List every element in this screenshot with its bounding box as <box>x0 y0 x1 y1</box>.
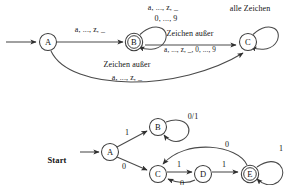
bottom-state-c-label: C <box>155 170 161 179</box>
bottom-edge-a-to-b <box>117 131 147 147</box>
bottom-state-b-label: B <box>155 123 161 132</box>
top-label-c-self-loop: alle Zeichen <box>230 5 271 13</box>
bottom-label-a-to-b: 1 <box>125 129 129 137</box>
top-automaton-group <box>6 27 278 82</box>
bottom-edge-e-self-loop <box>257 162 283 185</box>
bottom-edge-e-to-c <box>163 147 247 165</box>
bottom-label-a-to-c: 0 <box>122 163 126 171</box>
top-label-b-to-c-line2: a, ..., z, _, 0, ..., 9 <box>164 47 216 54</box>
diagram-vector-layer <box>0 0 289 185</box>
bottom-state-a-label: A <box>107 148 113 157</box>
top-label-a-to-c-line2: a, ..., z, _ <box>112 74 142 82</box>
top-label-b-self-loop-line1: a, ..., z, _ <box>148 4 178 12</box>
bottom-state-e-label: E <box>247 170 252 179</box>
bottom-state-d-label: D <box>200 170 206 179</box>
bottom-label-e-to-c: 0 <box>225 141 229 149</box>
bottom-label-d-to-e: 1 <box>222 161 226 169</box>
top-label-a-to-b: a, ..., z, _ <box>75 26 105 34</box>
top-state-b-label: B <box>131 38 137 47</box>
top-label-b-self-loop-line2: 0, ..., 9 <box>155 15 178 23</box>
bottom-start-label: Start <box>48 156 67 165</box>
top-edge-b-self-loop <box>139 27 166 49</box>
top-label-a-to-c-line1: Zeichen außer <box>104 61 151 69</box>
bottom-edge-b-self-loop <box>164 120 189 141</box>
top-label-b-to-c-line1: Zeichen außer <box>167 30 214 38</box>
bottom-label-d-to-c: 0 <box>180 180 184 185</box>
top-state-c-label: C <box>245 38 251 47</box>
bottom-label-e-self-loop: 1 <box>279 145 283 153</box>
automata-figure: A B C a, ..., z, _ a, ..., z, _ 0, ..., … <box>0 0 289 185</box>
bottom-label-c-to-d: 1 <box>177 161 181 169</box>
bottom-label-b-self-loop: 0/1 <box>188 113 199 121</box>
top-state-a-label: A <box>45 38 51 47</box>
